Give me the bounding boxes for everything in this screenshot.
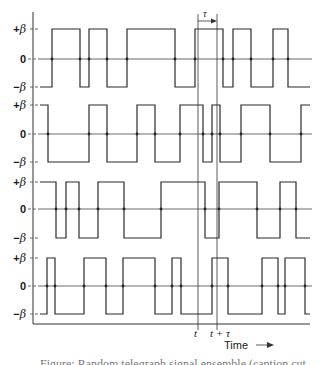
zero-crossing-dot (54, 285, 57, 288)
zero-crossing-dot (106, 133, 109, 136)
zero-crossing-dot (123, 208, 126, 211)
zero-crossing-dot (122, 285, 125, 288)
tau-label: τ (203, 8, 207, 19)
minus-beta-label: −β (0, 81, 26, 94)
zero-crossing-dot (269, 133, 272, 136)
zero-crossing-dot (284, 285, 287, 288)
zero-crossing-dot (279, 208, 282, 211)
t-plus-tau-label: t + τ (210, 327, 230, 339)
zero-crossing-dot (250, 58, 253, 61)
zero-crossing-dot (47, 133, 50, 136)
zero-crossing-dot (287, 58, 290, 61)
zero-crossing-dot (194, 58, 197, 61)
zero-crossing-dot (300, 133, 303, 136)
zero-crossing-dot (88, 58, 91, 61)
zero-crossing-dot (202, 133, 205, 136)
plus-beta-label: +β (0, 99, 26, 112)
zero-crossing-dot (46, 285, 49, 288)
zero-crossing-dot (219, 133, 222, 136)
zero-crossing-dot (78, 208, 81, 211)
zero-crossing-dot (227, 285, 230, 288)
zero-crossing-dot (204, 208, 207, 211)
time-axis-label: Time (224, 339, 248, 351)
zero-crossing-dot (180, 285, 183, 288)
zero-crossing-dot (261, 285, 264, 288)
zero-crossing-dot (272, 58, 275, 61)
zero-crossing-dot (79, 58, 82, 61)
plus-beta-label: +β (0, 23, 26, 36)
waveform-3 (40, 182, 310, 238)
zero-crossing-dot (65, 208, 68, 211)
minus-beta-label: −β (0, 156, 26, 169)
zero-crossing-dot (256, 208, 259, 211)
minus-beta-label: −β (0, 232, 26, 245)
zero-crossing-dot (160, 208, 163, 211)
zero-crossing-dot (171, 285, 174, 288)
zero-label: 0 (0, 203, 26, 215)
zero-crossing-dot (154, 133, 157, 136)
zero-crossing-dot (174, 58, 177, 61)
level-ticks (30, 29, 38, 314)
time-arrowhead-icon (267, 342, 274, 348)
zero-label: 0 (0, 128, 26, 140)
zero-crossing-dot (88, 133, 91, 136)
random-telegraph-waveforms (0, 0, 320, 365)
zero-crossing-dot (126, 58, 129, 61)
waveforms (40, 29, 310, 314)
zero-crossing-dot (97, 208, 100, 211)
tau-arrowhead-icon (211, 19, 217, 24)
minus-beta-label: −β (0, 308, 26, 321)
zero-label: 0 (0, 280, 26, 292)
zero-crossing-dot (154, 285, 157, 288)
zero-crossing-dot (51, 58, 54, 61)
zero-crossing-dot (179, 133, 182, 136)
zero-crossing-dot (218, 208, 221, 211)
zero-crossing-dot (105, 285, 108, 288)
zero-crossing-dot (232, 58, 235, 61)
zero-crossing-dot (83, 285, 86, 288)
zero-crossing-dot (222, 58, 225, 61)
zero-crossing-dot (211, 285, 214, 288)
zero-crossing-dot (55, 208, 58, 211)
t-label: t (194, 327, 197, 339)
zero-crossing-dot (211, 133, 214, 136)
zero-crossing-dot (304, 285, 307, 288)
zero-label: 0 (0, 53, 26, 65)
zero-crossing-dot (295, 208, 298, 211)
zero-crossing-dot (277, 285, 280, 288)
zero-crossing-dot (240, 133, 243, 136)
zero-crossing-dot (136, 133, 139, 136)
plus-beta-label: +β (0, 176, 26, 189)
figure-caption: Figure: Random telegraph signal ensemble… (40, 356, 320, 365)
zero-crossing-dots (46, 58, 307, 288)
zero-lines (28, 59, 312, 286)
zero-crossing-dot (106, 58, 109, 61)
plus-beta-label: +β (0, 252, 26, 265)
